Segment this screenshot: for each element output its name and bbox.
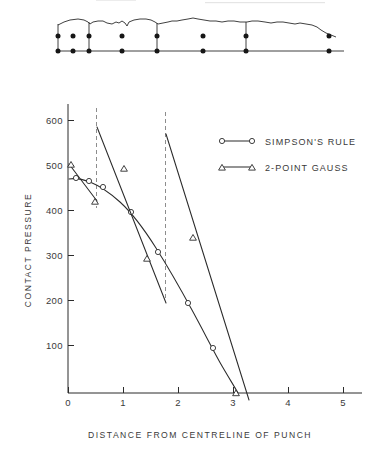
legend-entry-2-point-gauss[interactable]: 2-POINT GAUSS: [219, 163, 349, 173]
x-tick-label-3: 3: [230, 397, 236, 408]
y-tick-label-300: 300: [46, 250, 63, 261]
x-tick-label-1: 1: [120, 397, 126, 408]
x-tick-label-2: 2: [175, 397, 181, 408]
x-tick-label-4: 4: [285, 397, 291, 408]
legend-marker-circle: [249, 138, 254, 143]
data-point-marker: [210, 345, 215, 350]
y-tick-label-500: 500: [46, 160, 63, 171]
gauss-segment-3: [166, 134, 249, 400]
contact-pressure-chart: 600 500 400 300 200 100 0 1 2 3 4 5 CONT…: [0, 0, 377, 451]
x-axis-title: DISTANCE FROM CENTRELINE OF PUNCH: [88, 430, 312, 440]
data-point-marker: [190, 235, 197, 241]
x-tick-label-0: 0: [65, 397, 71, 408]
data-point-marker: [185, 300, 190, 305]
y-tick-label-200: 200: [46, 295, 63, 306]
legend-label-simpsons-rule: SIMPSON'S RULE: [265, 137, 356, 147]
legend-marker-circle: [219, 138, 224, 143]
gauss-segment-2: [97, 127, 166, 303]
legend-label-2-point-gauss: 2-POINT GAUSS: [265, 163, 349, 173]
data-point-marker: [86, 178, 91, 183]
x-tick-label-5: 5: [340, 397, 346, 408]
y-axis-title: CONTACT PRESSURE: [23, 193, 33, 307]
y-axis-ticks: [68, 121, 74, 346]
x-axis-ticks: [69, 387, 344, 393]
x-axis-tick-labels: 0 1 2 3 4 5: [65, 397, 346, 408]
element-boundary-guides: [97, 108, 166, 298]
gauss-segment-1: [69, 164, 97, 201]
figure-page: 600 500 400 300 200 100 0 1 2 3 4 5 CONT…: [0, 0, 377, 451]
y-axis-tick-labels: 600 500 400 300 200 100: [46, 115, 63, 351]
y-tick-label-400: 400: [46, 205, 63, 216]
simpsons-rule-curve: [69, 179, 238, 393]
legend-entry-simpsons-rule[interactable]: SIMPSON'S RULE: [219, 137, 356, 147]
y-tick-label-600: 600: [46, 115, 63, 126]
data-point-marker: [121, 166, 128, 172]
chart-legend: SIMPSON'S RULE 2-POINT GAUSS: [219, 137, 357, 173]
y-tick-label-100: 100: [46, 340, 63, 351]
data-point-marker: [144, 256, 151, 262]
data-point-marker: [100, 184, 105, 189]
data-point-marker: [155, 249, 160, 254]
